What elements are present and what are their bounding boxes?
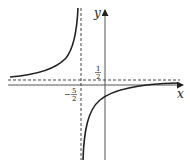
curve-upper-left-branch xyxy=(10,8,78,77)
horizontal-asymptote-label: 1 2 xyxy=(95,65,101,81)
fraction-numerator: 5 xyxy=(72,87,76,95)
fraction-numerator: 1 xyxy=(96,65,100,73)
vertical-asymptote-label: − 5 2 xyxy=(64,87,77,103)
curve-lower-right-branch xyxy=(83,83,178,160)
hyperbola-graph: y x 1 2 − 5 2 xyxy=(0,0,190,167)
minus-sign: − xyxy=(64,90,71,99)
fraction-denominator: 2 xyxy=(72,95,76,103)
y-axis-label: y xyxy=(93,6,101,20)
fraction-denominator: 2 xyxy=(96,73,100,81)
x-axis-label: x xyxy=(177,87,184,101)
